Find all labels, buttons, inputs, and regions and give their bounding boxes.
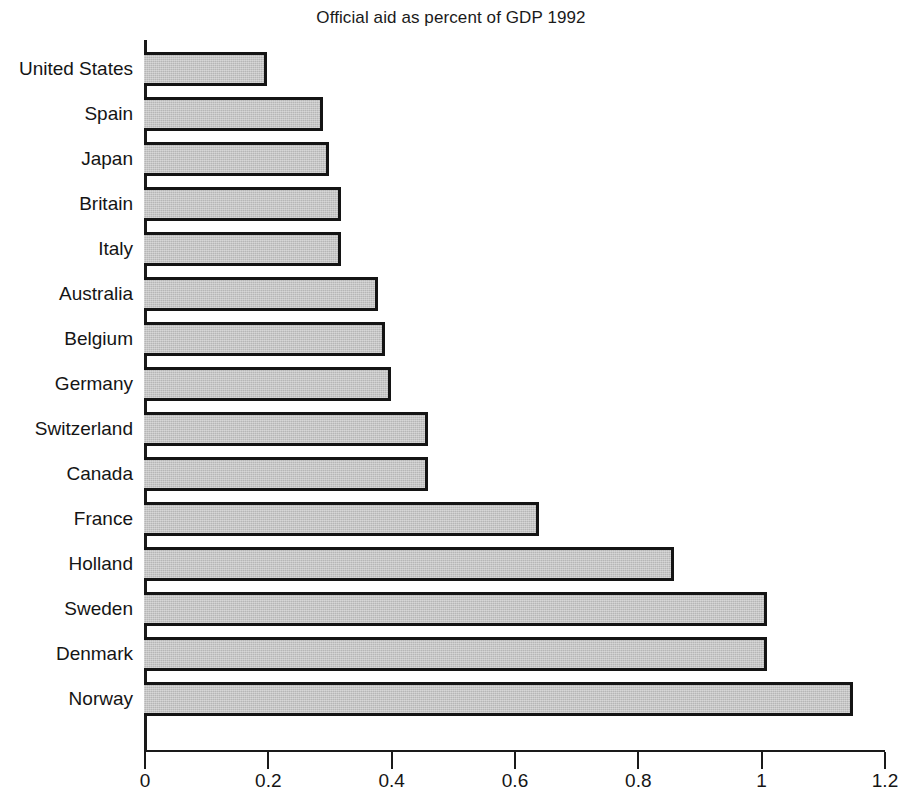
y-axis-label-switzerland: Switzerland xyxy=(0,412,133,446)
y-axis-label-belgium: Belgium xyxy=(0,322,133,356)
bar-denmark xyxy=(144,637,767,671)
y-axis-label-britain: Britain xyxy=(0,187,133,221)
bar-row xyxy=(144,367,884,401)
y-axis-label-canada: Canada xyxy=(0,457,133,491)
bar-holland xyxy=(144,547,674,581)
bar-row xyxy=(144,547,884,581)
y-axis-label-france: France xyxy=(0,502,133,536)
y-axis-label-australia: Australia xyxy=(0,277,133,311)
x-axis-tick xyxy=(267,752,269,769)
bar-row xyxy=(144,637,884,671)
bar-row xyxy=(144,682,884,716)
bar-row xyxy=(144,52,884,86)
x-axis-tick-label: 0.4 xyxy=(378,770,404,791)
x-axis-tick-label: 0.8 xyxy=(625,770,651,791)
x-axis-tick xyxy=(884,752,886,769)
x-axis-tick xyxy=(637,752,639,769)
y-axis-category-labels: United StatesSpainJapanBritainItalyAustr… xyxy=(0,40,133,750)
x-axis-tick xyxy=(144,752,146,769)
y-axis-label-norway: Norway xyxy=(0,682,133,716)
bar-row xyxy=(144,322,884,356)
bar-belgium xyxy=(144,322,385,356)
plot-area xyxy=(144,40,884,750)
chart-title: Official aid as percent of GDP 1992 xyxy=(0,8,902,28)
x-axis-tick-label: 1.2 xyxy=(872,770,898,791)
y-axis-label-spain: Spain xyxy=(0,97,133,131)
bar-australia xyxy=(144,277,378,311)
bar-row xyxy=(144,97,884,131)
bar-sweden xyxy=(144,592,767,626)
bar-row xyxy=(144,277,884,311)
bar-row xyxy=(144,232,884,266)
bar-spain xyxy=(144,97,323,131)
x-axis-tick-label: 0.2 xyxy=(255,770,281,791)
bar-row xyxy=(144,187,884,221)
x-axis-tick xyxy=(514,752,516,769)
bar-germany xyxy=(144,367,391,401)
x-axis-tick xyxy=(391,752,393,769)
y-axis-label-united-states: United States xyxy=(0,52,133,86)
x-axis-tick-label: 0.6 xyxy=(502,770,528,791)
bar-row xyxy=(144,457,884,491)
x-axis-tick-label: 0 xyxy=(140,770,151,791)
bar-row xyxy=(144,592,884,626)
y-axis-label-sweden: Sweden xyxy=(0,592,133,626)
bar-united-states xyxy=(144,52,267,86)
bar-japan xyxy=(144,142,329,176)
bar-norway xyxy=(144,682,853,716)
y-axis-label-holland: Holland xyxy=(0,547,133,581)
bar-france xyxy=(144,502,539,536)
y-axis-label-japan: Japan xyxy=(0,142,133,176)
bar-britain xyxy=(144,187,341,221)
bar-row xyxy=(144,412,884,446)
x-axis-tick-label: 1 xyxy=(756,770,767,791)
bar-canada xyxy=(144,457,428,491)
y-axis-label-italy: Italy xyxy=(0,232,133,266)
bar-row xyxy=(144,502,884,536)
x-axis-tick xyxy=(761,752,763,769)
y-axis-label-germany: Germany xyxy=(0,367,133,401)
bar-italy xyxy=(144,232,341,266)
bar-row xyxy=(144,142,884,176)
y-axis-label-denmark: Denmark xyxy=(0,637,133,671)
bar-switzerland xyxy=(144,412,428,446)
